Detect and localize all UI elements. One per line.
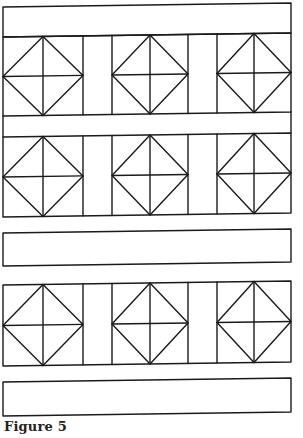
quilt-figure	[0, 0, 303, 438]
row-1-block-1-horizontal	[3, 75, 83, 76]
row-2-block-1-horizontal	[3, 176, 83, 177]
row-3-block-1-horizontal	[3, 324, 83, 325]
middle-band-rect	[3, 229, 291, 266]
bottom-band-rect	[3, 378, 291, 416]
row-3-block-3-horizontal	[217, 322, 291, 323]
row-2-block-3-horizontal	[217, 173, 291, 174]
top-band-rect	[3, 3, 291, 37]
row-1-block-2-horizontal	[112, 74, 188, 75]
quilt-diagram	[0, 0, 303, 438]
row-1-block-3-horizontal	[217, 73, 291, 74]
row-3-block-2-horizontal	[112, 323, 188, 324]
figure-caption: Figure 5	[4, 419, 67, 434]
row-2-block-2-horizontal	[112, 174, 188, 175]
